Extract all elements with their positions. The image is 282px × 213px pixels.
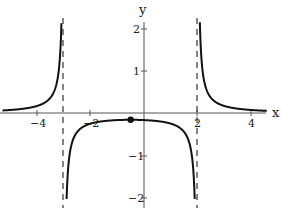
y-tick-label: 2 — [133, 23, 140, 36]
curve-right-branch — [200, 22, 267, 111]
x-tick-label: 4 — [248, 117, 255, 130]
x-tick-label: −4 — [30, 117, 46, 130]
curve-left-branch — [2, 23, 61, 110]
y-tick-label: −1 — [128, 150, 144, 163]
local-maximum-point — [127, 117, 133, 123]
y-axis-label: y — [138, 2, 147, 17]
y-tick-label: −2 — [128, 192, 144, 205]
function-plot: −4 −2 2 4 2 1 −1 −2 x y — [0, 0, 282, 213]
y-tick-label: 1 — [133, 65, 140, 78]
x-axis-label: x — [272, 105, 280, 120]
